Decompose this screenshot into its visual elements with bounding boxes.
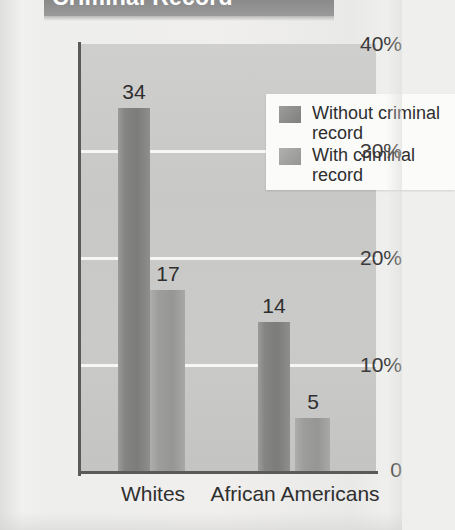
scan-edge-right xyxy=(386,0,402,530)
legend-item-without-criminal-record: Without criminal record xyxy=(279,103,445,144)
bar-value-aa-without: 14 xyxy=(246,294,302,318)
bar-whites-without-criminal-record xyxy=(118,108,150,472)
chart-title-band: Criminal Record xyxy=(44,0,334,16)
title-band-shadow xyxy=(44,16,334,21)
bar-value-aa-with: 5 xyxy=(285,390,341,414)
bar-whites-with-criminal-record xyxy=(150,290,185,472)
page-title: Criminal Record xyxy=(52,0,233,11)
bar-value-whites-with: 17 xyxy=(140,262,196,286)
bar-value-whites-without: 34 xyxy=(106,80,162,104)
y-axis-line xyxy=(78,42,81,476)
scan-edge-left xyxy=(0,0,22,530)
legend-label-without: Without criminal record xyxy=(312,103,445,144)
legend-swatch-icon-without xyxy=(279,106,301,123)
x-category-label-whites: Whites xyxy=(100,482,206,506)
scan-edge-bottom xyxy=(0,512,402,530)
legend-swatch-icon-with xyxy=(279,148,301,165)
x-category-label-african-americans: African Americans xyxy=(210,482,380,506)
bar-african-americans-with-criminal-record xyxy=(295,418,330,472)
